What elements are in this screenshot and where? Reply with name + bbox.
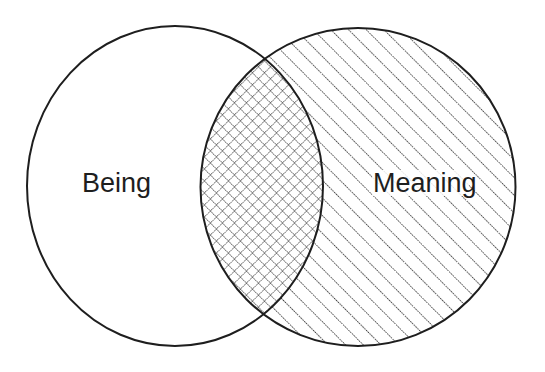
intersection-fill: [27, 26, 323, 346]
meaning-label: Meaning: [373, 168, 477, 198]
venn-diagram: Being Meaning: [0, 0, 545, 372]
being-label: Being: [82, 168, 151, 198]
